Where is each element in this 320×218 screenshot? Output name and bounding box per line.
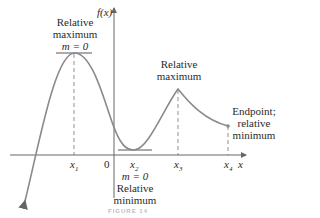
- annotation-relative-maximum-2: Relative maximum: [156, 58, 202, 82]
- origin-label: 0: [104, 158, 110, 170]
- x-axis-label: x: [238, 158, 243, 170]
- annotation-endpoint: Endpoint; relative minimum: [231, 105, 277, 141]
- annotation-relative-maximum-1: Relative maximum m = 0: [52, 16, 98, 52]
- annotation-relative-minimum: m = 0 Relative minimum: [112, 170, 158, 206]
- tick-x4: x4: [224, 158, 232, 175]
- tick-x3: x3: [174, 158, 182, 175]
- tick-x1: x1: [70, 158, 78, 175]
- y-axis-label: f(x): [97, 6, 112, 18]
- endpoint-dot: [226, 124, 230, 128]
- figure-caption: FIGURE 14: [108, 208, 148, 214]
